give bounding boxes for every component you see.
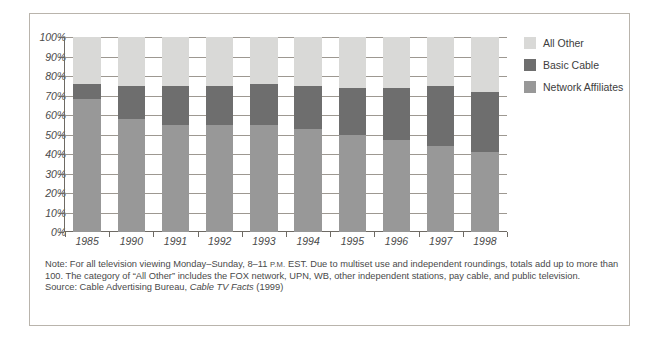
note-smallcaps-pm: P.M. <box>270 260 285 269</box>
x-tickmark <box>507 232 508 237</box>
stacked-bar[interactable] <box>118 37 145 232</box>
y-tickmark <box>59 174 64 175</box>
stacked-bar[interactable] <box>294 37 321 232</box>
bar-slot <box>198 37 242 232</box>
bar-segment-basic-cable <box>383 88 410 141</box>
bar-segment-network-affiliates <box>206 125 233 232</box>
x-tick-label: 1997 <box>419 235 463 255</box>
figure-frame: 100%90%80%70%60%50%40%30%20%10%0% 198519… <box>29 13 630 326</box>
y-tickmark <box>59 115 64 116</box>
bar-segment-basic-cable <box>73 84 100 100</box>
chart-plot-area: 100%90%80%70%60%50%40%30%20%10%0% 198519… <box>30 14 631 236</box>
bar-segment-network-affiliates <box>73 99 100 232</box>
source-suffix: (1999) <box>254 282 283 292</box>
x-tick-label: 1991 <box>153 235 197 255</box>
bar-segment-all-other <box>73 37 100 84</box>
stacked-bar[interactable] <box>250 37 277 232</box>
y-tickmark <box>59 232 64 233</box>
legend-item[interactable]: Network Affiliates <box>524 81 629 93</box>
bar-segment-basic-cable <box>162 86 189 125</box>
bar-segment-basic-cable <box>471 92 498 152</box>
bar-slot <box>419 37 463 232</box>
x-tick-label: 1994 <box>286 235 330 255</box>
y-tickmark <box>59 96 64 97</box>
legend-label: All Other <box>543 37 584 49</box>
bar-slot <box>286 37 330 232</box>
stacked-bar[interactable] <box>383 37 410 232</box>
bar-segment-all-other <box>339 37 366 88</box>
source-title: Cable TV Facts <box>190 282 254 292</box>
figure-notes: Note: For all television viewing Monday–… <box>45 259 620 294</box>
bar-segment-basic-cable <box>294 86 321 129</box>
stacked-bar[interactable] <box>162 37 189 232</box>
legend-label: Basic Cable <box>543 59 599 71</box>
bar-segment-all-other <box>162 37 189 86</box>
legend-swatch-icon <box>524 59 536 71</box>
y-tickmark <box>59 213 64 214</box>
bar-segment-network-affiliates <box>294 129 321 232</box>
bar-segment-network-affiliates <box>427 146 454 232</box>
legend-item[interactable]: Basic Cable <box>524 59 629 71</box>
bar-segment-basic-cable <box>118 86 145 119</box>
x-tick-label: 1990 <box>109 235 153 255</box>
stacked-bar[interactable] <box>206 37 233 232</box>
bar-slot <box>65 37 109 232</box>
legend-label: Network Affiliates <box>543 81 623 93</box>
legend-item[interactable]: All Other <box>524 37 629 49</box>
note-text: Note: For all television viewing Monday–… <box>45 259 620 282</box>
bar-segment-network-affiliates <box>162 125 189 232</box>
bar-segment-all-other <box>383 37 410 88</box>
note-prefix: Note: For all television viewing Monday–… <box>45 259 270 269</box>
x-tick-label: 1985 <box>65 235 109 255</box>
bar-slot <box>153 37 197 232</box>
stacked-bar[interactable] <box>427 37 454 232</box>
bar-segment-all-other <box>250 37 277 84</box>
x-tick-label: 1993 <box>242 235 286 255</box>
bar-series-group <box>65 37 507 232</box>
x-tick-label: 1992 <box>198 235 242 255</box>
bar-slot <box>109 37 153 232</box>
source-prefix: Source: Cable Advertising Bureau, <box>45 282 190 292</box>
y-tickmark <box>59 154 64 155</box>
x-tick-label: 1998 <box>463 235 507 255</box>
bar-segment-network-affiliates <box>383 140 410 232</box>
bar-segment-basic-cable <box>206 86 233 125</box>
bar-segment-all-other <box>427 37 454 86</box>
bar-segment-network-affiliates <box>250 125 277 232</box>
stacked-bar[interactable] <box>339 37 366 232</box>
legend-swatch-icon <box>524 81 536 93</box>
bar-segment-all-other <box>206 37 233 86</box>
bar-segment-basic-cable <box>339 88 366 135</box>
y-tickmark <box>59 37 64 38</box>
bar-segment-all-other <box>471 37 498 92</box>
bar-segment-basic-cable <box>427 86 454 146</box>
bar-segment-all-other <box>294 37 321 86</box>
plot-canvas <box>64 37 507 232</box>
stacked-bar[interactable] <box>73 37 100 232</box>
bar-segment-all-other <box>118 37 145 86</box>
y-tickmark <box>59 193 64 194</box>
bar-segment-network-affiliates <box>339 135 366 233</box>
bar-slot <box>463 37 507 232</box>
stacked-bar[interactable] <box>471 37 498 232</box>
y-tickmark <box>59 76 64 77</box>
bar-segment-network-affiliates <box>118 119 145 232</box>
y-tickmark <box>59 135 64 136</box>
x-tick-label: 1995 <box>330 235 374 255</box>
chart-legend: All OtherBasic CableNetwork Affiliates <box>524 37 629 103</box>
bar-slot <box>330 37 374 232</box>
y-tickmark <box>59 57 64 58</box>
legend-swatch-icon <box>524 37 536 49</box>
bar-slot <box>242 37 286 232</box>
x-tick-label: 1996 <box>374 235 418 255</box>
bar-segment-basic-cable <box>250 84 277 125</box>
source-text: Source: Cable Advertising Bureau, Cable … <box>45 282 620 294</box>
bar-segment-network-affiliates <box>471 152 498 232</box>
bar-slot <box>374 37 418 232</box>
x-axis-tick-labels: 1985199019911992199319941995199619971998 <box>65 235 507 255</box>
